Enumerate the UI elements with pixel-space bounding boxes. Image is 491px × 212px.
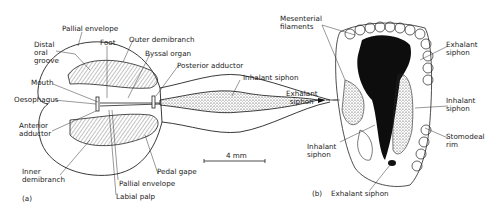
panel-label-b: (b) [312,190,322,198]
label-mouth: Mouth [31,79,54,87]
label-inner-demibranch: Inner demibranch [22,168,65,184]
label-pedal-gape: Pedal gape [157,168,197,176]
inner-demibranch-shape [70,114,158,145]
scale-bar-label: 4 mm [226,152,247,160]
label-distal-oral-groove: Distal oral groove [34,41,59,65]
label-anterior-adductor: Anterior adductor [19,122,51,138]
panel-label-a: (a) [22,195,32,203]
label-inhalant-siphon-a: Inhalant siphon [243,74,299,82]
outer-demibranch-shape [68,60,158,88]
label-pallial-envelope-top: Pallial envelope [62,25,118,33]
label-byssal-organ: Byssal organ [145,50,191,58]
label-stomodeal-rim: Stomodeal rim [446,133,485,149]
label-inhalant-siphon-b-right: Inhalant siphon [446,97,475,113]
label-foot: Foot [100,39,116,47]
label-inhalant-siphon-b-left: Inhalant siphon [307,143,336,159]
label-outer-demibranch: Outer demibranch [129,36,195,44]
section-b [336,22,433,186]
label-exhalant-siphon-b-top: Exhalant siphon [446,41,478,57]
label-exhalant-siphon-b-bottom: Exhalant siphon [331,190,389,198]
label-exhalant-siphon-a: Exhalant siphon [286,90,318,106]
label-posterior-adductor: Posterior adductor [177,62,243,70]
label-pallial-envelope-bottom: Pallial envelope [119,180,175,188]
label-labial-palp: Labial palp [116,193,155,201]
label-oesophagus: Oesophagus [14,96,59,104]
label-mesenterial-filaments: Mesenterial filaments [280,15,322,31]
